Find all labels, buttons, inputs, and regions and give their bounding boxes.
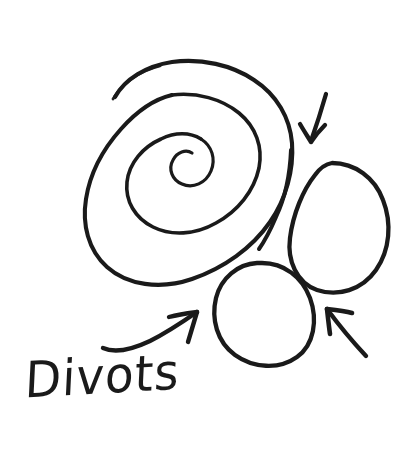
- arrow-down-left: [300, 94, 326, 142]
- divots-label: Divots: [24, 346, 181, 405]
- sketch-canvas: Divots: [0, 0, 417, 452]
- oval-bottom-left: [214, 263, 314, 366]
- spiral-swirl: [85, 61, 292, 285]
- oval-right: [289, 163, 388, 293]
- arrow-up-left: [327, 309, 366, 356]
